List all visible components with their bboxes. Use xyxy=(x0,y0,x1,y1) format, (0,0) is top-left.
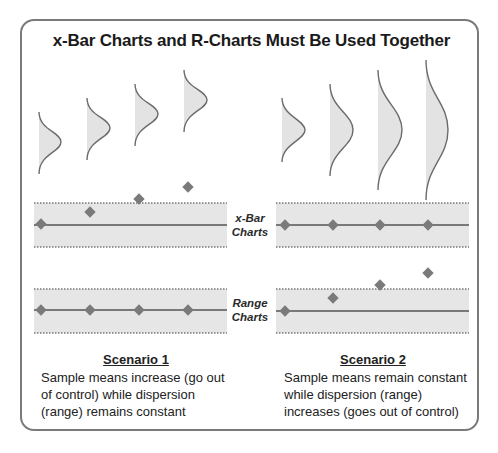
scenario1-line2: of control) while dispersion xyxy=(41,386,251,403)
range-label-line1: Range xyxy=(220,296,280,310)
range-charts-label: Range Charts xyxy=(220,296,280,324)
scenario2-line2: while dispersion (range) xyxy=(284,386,484,403)
scenario1-range-chart xyxy=(34,289,227,333)
scenario2-heading: Scenario 2 xyxy=(284,351,462,368)
scenario2-description: Scenario 2 Sample means remain constant … xyxy=(284,351,484,420)
scenario1-heading: Scenario 1 xyxy=(41,351,231,368)
scenario2-distributions xyxy=(282,60,448,200)
scenario2-line1: Sample means remain constant xyxy=(284,369,484,386)
scenario1-distributions xyxy=(39,70,207,174)
scenario1-description: Scenario 1 Sample means increase (go out… xyxy=(41,351,251,420)
xbar-charts-label: x-Bar Charts xyxy=(220,211,280,239)
scenario1-line3: (range) remains constant xyxy=(41,403,251,420)
scenario1-line1: Sample means increase (go out xyxy=(41,369,251,386)
xbar-label-line2: Charts xyxy=(220,225,280,239)
scenario2-range-chart xyxy=(276,267,469,333)
range-label-line2: Charts xyxy=(220,310,280,324)
scenario2-line3: increases (goes out of control) xyxy=(284,403,484,420)
scenario2-xbar-chart xyxy=(276,203,469,247)
xbar-label-line1: x-Bar xyxy=(220,211,280,225)
scenario1-xbar-chart xyxy=(34,181,227,247)
